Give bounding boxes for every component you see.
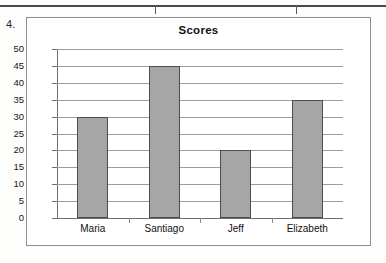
y-axis-tick-mark bbox=[52, 201, 57, 202]
gridline bbox=[57, 66, 343, 67]
table-top-rule bbox=[0, 5, 386, 7]
y-axis-tick-label: 25 bbox=[2, 129, 24, 139]
table-column-divider bbox=[296, 5, 297, 14]
gridline bbox=[57, 83, 343, 84]
y-axis-tick-label: 15 bbox=[2, 163, 24, 173]
y-axis-tick-mark bbox=[52, 184, 57, 185]
y-axis-tick-labels: 05101520253035404550 bbox=[0, 49, 24, 218]
plot-area bbox=[57, 49, 343, 218]
y-axis-tick-label: 0 bbox=[2, 213, 24, 223]
bar bbox=[77, 117, 108, 218]
y-axis-tick-label: 5 bbox=[2, 196, 24, 206]
x-axis-tick-labels: MariaSantiagoJeffElizabeth bbox=[57, 223, 343, 241]
y-axis-tick-label: 35 bbox=[2, 95, 24, 105]
x-axis-tick-label: Jeff bbox=[228, 223, 244, 235]
y-axis-tick-mark bbox=[52, 83, 57, 84]
worksheet-page: 4. Scores 05101520253035404550 MariaSant… bbox=[0, 0, 386, 263]
chart-title: Scores bbox=[27, 24, 370, 36]
table-column-divider bbox=[155, 5, 156, 14]
x-axis-tick-label: Maria bbox=[80, 223, 105, 235]
y-axis-tick-mark bbox=[52, 100, 57, 101]
x-axis-tick-label: Elizabeth bbox=[287, 223, 328, 235]
bar bbox=[292, 100, 323, 218]
y-axis-tick-label: 40 bbox=[2, 78, 24, 88]
y-axis-tick-label: 10 bbox=[2, 179, 24, 189]
y-axis-tick-mark bbox=[52, 167, 57, 168]
y-axis-tick-mark bbox=[52, 150, 57, 151]
y-axis-tick-label: 50 bbox=[2, 44, 24, 54]
bar bbox=[149, 66, 180, 218]
bar bbox=[220, 150, 251, 218]
y-axis-tick-label: 45 bbox=[2, 61, 24, 71]
y-axis-tick-label: 20 bbox=[2, 146, 24, 156]
y-axis-tick-mark bbox=[52, 218, 57, 219]
chart-container: Scores 05101520253035404550 MariaSantiag… bbox=[26, 17, 371, 246]
question-number: 4. bbox=[6, 19, 16, 30]
gridline bbox=[57, 49, 343, 50]
x-axis-tick-label: Santiago bbox=[145, 223, 184, 235]
y-axis-tick-mark bbox=[52, 49, 57, 50]
y-axis-tick-mark bbox=[52, 134, 57, 135]
y-axis-tick-label: 30 bbox=[2, 112, 24, 122]
y-axis-tick-mark bbox=[52, 66, 57, 67]
y-axis-tick-mark bbox=[52, 117, 57, 118]
